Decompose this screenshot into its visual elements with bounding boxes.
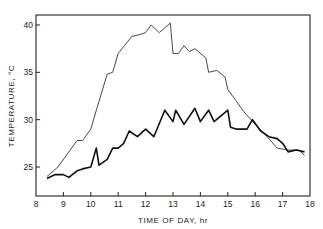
- x-tick-label: 13: [168, 199, 178, 209]
- thick-line-series: [47, 108, 305, 178]
- x-axis-title: TIME OF DAY, hr: [138, 216, 208, 225]
- y-tick-label: 25: [24, 162, 34, 172]
- x-tick-label: 17: [278, 199, 288, 209]
- y-tick-label: 35: [24, 67, 34, 77]
- thin-line-series: [47, 23, 305, 176]
- x-tick-label: 15: [223, 199, 233, 209]
- y-axis-ticks: 25303540: [24, 20, 40, 172]
- x-axis-ticks: 89101112131415161718: [34, 192, 315, 209]
- plot-frame: [36, 15, 310, 196]
- x-tick-label: 12: [141, 199, 151, 209]
- x-tick-label: 18: [305, 199, 315, 209]
- y-tick-label: 40: [24, 20, 34, 30]
- x-tick-label: 9: [61, 199, 66, 209]
- x-tick-label: 10: [86, 199, 96, 209]
- y-tick-label: 30: [24, 115, 34, 125]
- x-tick-label: 8: [34, 199, 39, 209]
- x-tick-label: 11: [114, 199, 123, 209]
- x-tick-label: 16: [250, 199, 260, 209]
- x-tick-label: 14: [196, 199, 206, 209]
- y-axis-title: TEMPERATURE, °C: [7, 65, 16, 147]
- chart-canvas: 25303540 89101112131415161718 TEMPERATUR…: [0, 0, 323, 229]
